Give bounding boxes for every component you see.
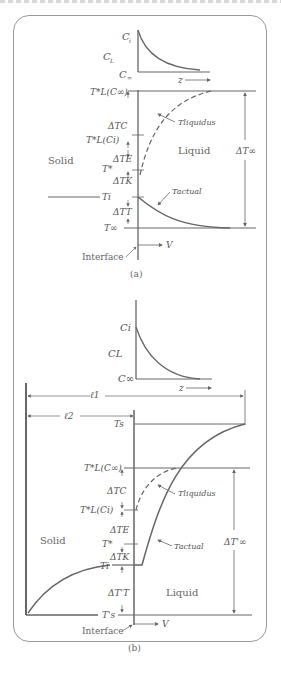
label-liquid: Liquid	[178, 145, 211, 156]
label-ci-b: Ci	[120, 322, 131, 333]
panel-b: Ci CL C∞ z	[26, 300, 252, 653]
label-interface-b: Interface	[82, 626, 124, 636]
label-tl-cinf: T*L(C∞)	[90, 87, 128, 97]
label-interface: Interface	[82, 252, 124, 262]
svg-text:∞: ∞	[127, 74, 132, 81]
label-ts-prime: T's	[102, 610, 115, 620]
label-tl-cinf-b: T*L(C∞)	[84, 463, 122, 473]
label-dte-b: ΔTE	[109, 525, 130, 535]
label-t-liquidus: Tliquidus	[178, 118, 216, 127]
label-liquid-b: Liquid	[166, 587, 199, 598]
label-dtc-b: ΔTC	[106, 486, 127, 496]
label-dtc: ΔTC	[107, 121, 128, 131]
label-cinf-b: C∞	[118, 373, 134, 384]
label-v: V	[166, 240, 174, 250]
caption-a: (a)	[130, 269, 142, 279]
label-tl-ci-b: T*L(Ci)	[80, 505, 114, 515]
panel-a-temperature-plot	[48, 90, 256, 260]
label-dtt-b: ΔT'T	[107, 588, 130, 598]
label-dtt: ΔTT	[112, 207, 133, 217]
svg-text:i: i	[129, 37, 131, 44]
label-cl-b: CL	[108, 348, 123, 359]
panel-a: C i C L C ∞ z	[48, 30, 256, 279]
label-t-liquidus-b: Tliquidus	[178, 489, 216, 498]
panel-a-concentration-plot	[138, 30, 210, 80]
label-dt-inf-b: ΔT'∞	[223, 537, 246, 547]
label-t-actual-b: Tactual	[174, 542, 204, 551]
label-t-actual: Tactual	[172, 187, 202, 196]
label-solid-b: Solid	[40, 535, 66, 546]
label-ti: Ti	[102, 192, 111, 202]
label-v-b: V	[162, 619, 170, 629]
label-ti-b: Ti	[100, 561, 109, 571]
label-l1: ℓ1	[90, 390, 99, 400]
label-dtk-b: ΔTK	[109, 552, 131, 562]
label-dtk: ΔTK	[112, 176, 134, 186]
label-ts: Ts	[114, 419, 124, 429]
caption-b: (b)	[128, 643, 141, 653]
label-dte: ΔTE	[112, 154, 133, 164]
svg-text:L: L	[109, 57, 114, 64]
label-tinf: T∞	[104, 223, 118, 233]
label-solid: Solid	[48, 155, 74, 166]
label-cinf: C	[119, 69, 127, 80]
label-z: z	[177, 75, 183, 85]
solidification-diagram: C i C L C ∞ z	[0, 0, 281, 676]
label-l2: ℓ2	[64, 411, 74, 421]
panel-b-concentration-plot	[136, 300, 212, 388]
label-dt-inf: ΔT∞	[235, 146, 256, 156]
label-tl-ci: T*L(Ci)	[86, 135, 120, 145]
panel-b-temperature-plot	[26, 383, 252, 631]
label-tstar-b: T*	[102, 539, 113, 549]
label-z-b: z	[178, 383, 184, 393]
label-tstar: T*	[102, 164, 113, 174]
